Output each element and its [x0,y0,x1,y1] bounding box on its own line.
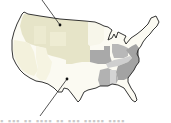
callout-south-dot [66,78,69,81]
region-idaho [34,26,46,44]
region-alabama [110,70,116,84]
callout-north-dot [59,24,62,27]
region-upper-midwest [88,22,104,46]
cut-off-caption: ▪ ▪▪▪ ▪▪ ▪▪▪▪ ▪▪ ▪▪▪ ▪▪▪▪▪ ▪▪▪▪ [0,117,171,123]
region-wyoming [50,32,66,46]
us-map [0,0,171,123]
